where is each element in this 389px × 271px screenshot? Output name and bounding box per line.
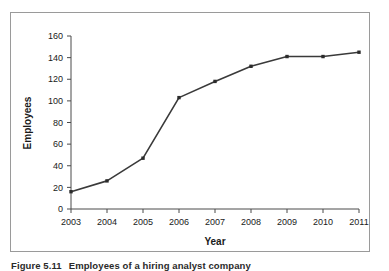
y-axis-title: Employees [22, 96, 33, 149]
data-point-marker [69, 190, 72, 193]
series-markers-employees [69, 51, 360, 194]
data-point-marker [357, 51, 360, 54]
figure-caption: Figure 5.11Employees of a hiring analyst… [11, 260, 381, 271]
y-tick-label: 60 [53, 139, 63, 149]
y-tick-label: 20 [53, 183, 63, 193]
x-tick-label: 2009 [277, 217, 297, 227]
data-point-marker [321, 55, 324, 58]
figure-caption-text: Employees of a hiring analyst company [69, 260, 251, 271]
data-point-marker [141, 156, 144, 159]
x-axis-title: Year [204, 236, 225, 247]
y-tick-label: 40 [53, 161, 63, 171]
y-tick-label: 140 [48, 53, 63, 63]
x-tick-label: 2007 [205, 217, 225, 227]
x-tick-label: 2005 [133, 217, 153, 227]
y-axis-ticks: 020406080100120140160 [48, 31, 71, 214]
data-point-marker [249, 65, 252, 68]
x-tick-label: 2006 [169, 217, 189, 227]
y-tick-label: 160 [48, 31, 63, 41]
data-point-marker [177, 96, 180, 99]
data-point-marker [213, 80, 216, 83]
x-tick-label: 2003 [61, 217, 81, 227]
data-point-marker [285, 55, 288, 58]
x-tick-label: 2011 [349, 217, 368, 227]
x-tick-label: 2008 [241, 217, 261, 227]
y-tick-label: 80 [53, 118, 63, 128]
series-line-employees [71, 52, 359, 191]
x-tick-label: 2004 [97, 217, 117, 227]
x-axis-ticks: 200320042005200620072008200920102011 [61, 209, 369, 227]
y-tick-label: 120 [48, 74, 63, 84]
figure-caption-number: Figure 5.11 [11, 260, 62, 271]
y-tick-label: 0 [58, 204, 63, 214]
y-tick-label: 100 [48, 96, 63, 106]
line-chart: 020406080100120140160 200320042005200620… [11, 13, 371, 253]
data-point-marker [105, 179, 108, 182]
x-tick-label: 2010 [313, 217, 333, 227]
figure-frame: 020406080100120140160 200320042005200620… [10, 12, 370, 252]
chart-plot-area: 020406080100120140160 200320042005200620… [11, 13, 371, 253]
